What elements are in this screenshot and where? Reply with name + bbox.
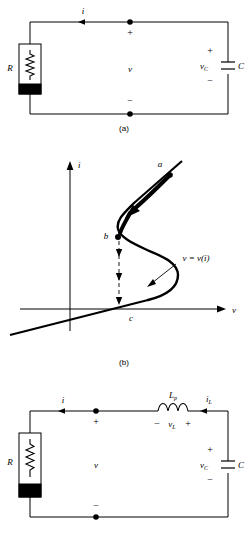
label-cap-voltage-a: vC: [200, 61, 209, 72]
axis-arrow-i: [67, 161, 74, 170]
label-cap-voltage-c: vC: [200, 460, 209, 471]
label-cap-plus-a: +: [207, 45, 213, 56]
label-point-a: a: [158, 159, 163, 169]
node-bottom-a: [127, 111, 133, 117]
label-vL-plus: +: [185, 418, 191, 429]
label-cap-plus-c: +: [207, 444, 213, 455]
inductor-symbol-c: [158, 404, 190, 412]
label-axis-i-b: i: [78, 160, 81, 170]
label-curve-equation: v = v(i): [182, 253, 209, 263]
label-resistor-R-a: R: [6, 63, 13, 73]
label-vL-minus: −: [154, 418, 160, 429]
label-cap-minus-a: −: [207, 75, 213, 86]
label-cap-minus-c: −: [207, 474, 213, 485]
curve-label-leader: [147, 264, 176, 287]
label-axis-v-b: v: [232, 305, 236, 315]
label-inductor-voltage-vL: vL: [168, 419, 176, 430]
label-capacitor-C-c: C: [238, 460, 245, 470]
current-arrow-iL-c: [200, 408, 207, 414]
label-minus-bottom-c: −: [93, 500, 99, 511]
label-voltage-v-c: v: [94, 460, 98, 470]
label-capacitor-C-a: C: [238, 61, 245, 71]
figure-b-svg: i v a b c v = v(i): [0, 137, 248, 369]
label-plus-top-c: +: [93, 416, 99, 427]
resistor-package-a: [19, 44, 41, 94]
point-b-dot: [115, 234, 121, 240]
label-current-i-c: i: [62, 395, 65, 405]
capacitor-symbol-a: [221, 62, 235, 69]
label-resistor-R-c: R: [6, 457, 13, 467]
circuit-c-wires: [30, 411, 228, 517]
label-current-i-a: i: [82, 6, 85, 16]
axis-arrow-v: [217, 306, 226, 313]
current-arrow-a: [78, 19, 85, 25]
label-minus-bottom-a: −: [127, 95, 133, 106]
jump-line-b-to-c: [116, 241, 122, 305]
label-plus-top-a: +: [127, 27, 133, 38]
label-inductor-Lp: Lp: [168, 390, 177, 401]
node-bottom-c: [93, 514, 99, 520]
figure-c-svg: i R + v − Lp − vL + iL + vC − C: [0, 369, 248, 537]
travel-arrow-a-to-b: [120, 175, 170, 233]
point-a-dot: [167, 172, 173, 178]
caption-figure-a: (a): [0, 124, 248, 133]
current-arrow-i-c: [58, 408, 65, 414]
label-inductor-current-iL: iL: [206, 394, 213, 405]
figure-b-iv-characteristic: i v a b c v = v(i) (b): [0, 137, 248, 369]
figure-c-rlc-circuit: i R + v − Lp − vL + iL + vC − C: [0, 369, 248, 537]
capacitor-symbol-c: [221, 461, 235, 468]
figure-a-rc-circuit: i R + v − + vC − C (a): [0, 0, 248, 137]
node-top-a: [127, 19, 133, 25]
curve-lower-branch: [10, 300, 148, 335]
label-voltage-v-a: v: [128, 64, 132, 74]
node-top-c: [93, 408, 99, 414]
label-point-c: c: [129, 313, 133, 323]
label-point-b: b: [104, 231, 109, 241]
resistor-package-c: [19, 433, 41, 497]
caption-figure-b: (b): [0, 358, 248, 367]
figure-a-svg: i R + v − + vC − C: [0, 0, 248, 137]
